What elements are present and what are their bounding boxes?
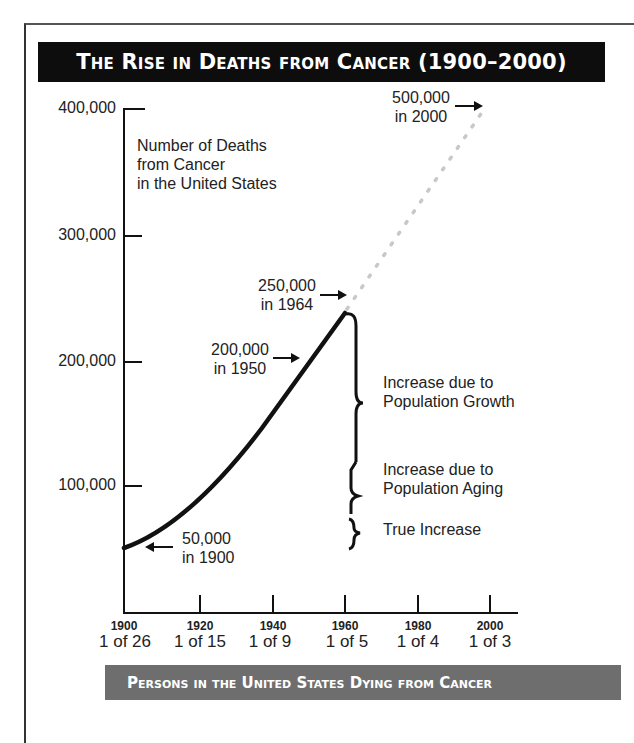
arrow-icon [320, 290, 347, 300]
annotation-true-increase: True Increase [383, 520, 481, 539]
annotation-population-aging: Increase due to Population Aging [383, 460, 503, 498]
y-axis-label-line: Number of Deaths [137, 136, 277, 155]
annotation-value: 50,000 [182, 529, 235, 548]
brace-true-increase [349, 519, 360, 549]
projection-dotted-line [347, 108, 485, 309]
annotation-population-growth: Increase due to Population Growth [383, 373, 515, 411]
x-tick-year: 1980 [388, 619, 448, 633]
arrow-icon [273, 353, 300, 363]
annotation-value: 250,000 [252, 276, 322, 295]
annotation-1950: 200,000 in 1950 [207, 340, 273, 378]
annotation-2000: 500,000 in 2000 [386, 88, 456, 126]
y-axis-label-line: from Cancer [137, 155, 277, 174]
y-axis-label-line: in the United States [137, 174, 277, 193]
x-tick-year: 1940 [243, 619, 303, 633]
x-tick-ratio: 1 of 4 [378, 632, 458, 652]
x-axis-title: Persons in the United States Dying from … [127, 674, 492, 692]
y-tick-label: 200,000 [6, 352, 116, 370]
annotation-value: 200,000 [207, 340, 273, 359]
arrow-icon [145, 542, 173, 552]
annotation-year: in 1950 [207, 359, 273, 378]
x-tick-year: 2000 [460, 619, 520, 633]
y-tick-label: 400,000 [6, 99, 116, 117]
annotation-1964: 250,000 in 1964 [252, 276, 322, 314]
annotation-year: in 1900 [182, 548, 235, 567]
x-tick-ratio: 1 of 3 [450, 632, 530, 652]
x-tick-year: 1960 [315, 619, 375, 633]
annotation-line: Increase due to [383, 460, 503, 479]
x-tick-year: 1900 [94, 619, 154, 633]
y-tick-label: 300,000 [6, 226, 116, 244]
annotation-line: Increase due to [383, 373, 515, 392]
x-tick-ratio: 1 of 26 [85, 632, 165, 652]
x-tick-year: 1920 [170, 619, 230, 633]
annotation-line: Population Aging [383, 479, 503, 498]
x-tick-ratio: 1 of 9 [230, 632, 310, 652]
x-tick-ratio: 1 of 15 [160, 632, 240, 652]
y-axis-label: Number of Deaths from Cancer in the Unit… [137, 136, 277, 193]
annotation-year: in 1964 [252, 295, 322, 314]
x-tick-ratio: 1 of 5 [307, 632, 387, 652]
annotation-year: in 2000 [386, 107, 456, 126]
annotation-line: Population Growth [383, 392, 515, 411]
brace-population-aging [351, 462, 358, 514]
y-tick-label: 100,000 [6, 476, 116, 494]
subtitle-bar: Persons in the United States Dying from … [105, 665, 621, 700]
brace-population-growth [346, 314, 363, 462]
annotation-value: 500,000 [386, 88, 456, 107]
annotation-1900: 50,000 in 1900 [182, 529, 235, 567]
arrow-icon [455, 101, 483, 111]
